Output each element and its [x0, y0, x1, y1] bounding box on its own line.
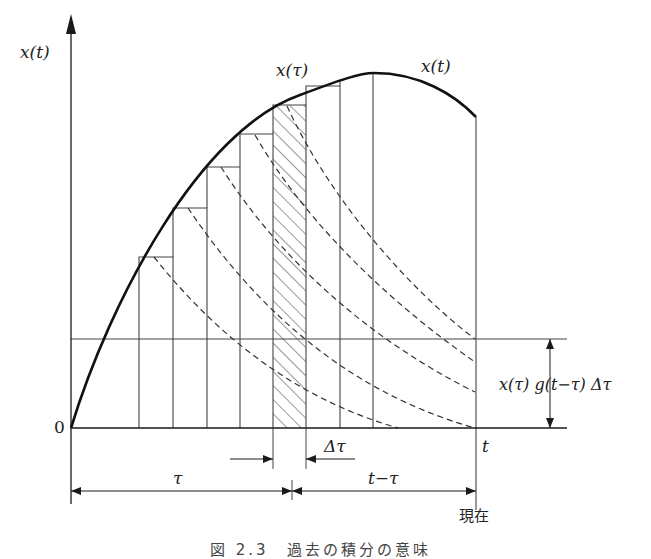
figure-caption: 図 2.3 過去の積分の意味 — [210, 538, 431, 559]
response-height-label: x(τ) g(t−τ) Δτ — [499, 377, 611, 393]
x-t-curve-label: x(t) — [421, 58, 451, 75]
y-axis-arrow-icon — [66, 14, 76, 34]
t-minus-tau-label: t−τ — [368, 470, 398, 487]
now-label: 現在 — [459, 509, 489, 524]
t-label: t — [482, 438, 489, 455]
x-tau-label: x(τ) — [276, 62, 308, 79]
approximation-bars — [139, 74, 476, 510]
y-axis-label: x(t) — [20, 44, 50, 61]
impulse-response-curves — [154, 106, 475, 428]
tau-span-label: τ — [173, 470, 182, 487]
origin-label: 0 — [54, 419, 65, 436]
delta-tau-label: Δτ — [324, 438, 346, 455]
